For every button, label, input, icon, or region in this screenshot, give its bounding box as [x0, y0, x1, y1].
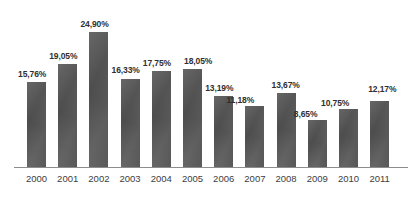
bar-group: 18,05%: [177, 0, 208, 167]
bar: [152, 71, 171, 167]
bar: [89, 32, 108, 167]
bar-group: 13,19%: [208, 0, 239, 167]
x-tick-label: 2003: [115, 172, 146, 186]
bar: [121, 79, 140, 168]
bar-value-label: 12,17%: [368, 85, 396, 94]
bar-value-label: 10,75%: [321, 99, 349, 108]
bar-value-label: 15,76%: [18, 70, 46, 79]
x-tick-label: 2002: [83, 172, 114, 186]
x-tick-label: 2001: [52, 172, 83, 186]
bar-group: 16,33%: [115, 0, 146, 167]
bar-value-label: 8,65%: [294, 110, 318, 119]
bar-group: 8,65%: [302, 0, 333, 167]
x-tick-label: 2000: [21, 172, 52, 186]
bar-value-label: 13,67%: [272, 81, 300, 90]
x-tick-label: 2011: [364, 172, 395, 186]
plot-area: 15,76%19,05%24,90%16,33%17,75%18,05%13,1…: [0, 0, 415, 167]
bar-group: 15,76%: [21, 0, 52, 167]
bar-group: 24,90%: [83, 0, 114, 167]
bar: [277, 93, 296, 167]
bar-group: 13,67%: [271, 0, 302, 167]
x-tick-label: 2008: [271, 172, 302, 186]
x-tick-label: 2007: [239, 172, 270, 186]
bar-group: 19,05%: [52, 0, 83, 167]
bar: [58, 64, 77, 167]
x-axis-line: [14, 167, 408, 168]
bar-value-label: 17,75%: [143, 59, 171, 68]
x-axis-tick-labels: 2000200120022003200420052006200720082009…: [0, 172, 415, 190]
bar: [370, 101, 389, 167]
bar-group: 10,75%: [333, 0, 364, 167]
bar-chart: 15,76%19,05%24,90%16,33%17,75%18,05%13,1…: [0, 0, 415, 199]
bar-group: 12,17%: [364, 0, 395, 167]
bar: [245, 106, 264, 167]
bar: [27, 82, 46, 167]
bar: [339, 109, 358, 167]
x-tick-label: 2010: [333, 172, 364, 186]
bar-value-label: 13,19%: [205, 84, 233, 93]
x-tick-label: 2009: [302, 172, 333, 186]
x-tick-label: 2004: [146, 172, 177, 186]
bar: [214, 96, 233, 167]
bar-value-label: 19,05%: [49, 52, 77, 61]
bar-value-label: 11,18%: [226, 96, 254, 105]
bar: [183, 69, 202, 167]
bar-value-label: 24,90%: [80, 20, 108, 29]
bar: [308, 120, 327, 167]
bar-value-label: 16,33%: [112, 66, 140, 75]
x-tick-label: 2005: [177, 172, 208, 186]
bar-group: 17,75%: [146, 0, 177, 167]
x-tick-label: 2006: [208, 172, 239, 186]
bar-group: 11,18%: [239, 0, 270, 167]
